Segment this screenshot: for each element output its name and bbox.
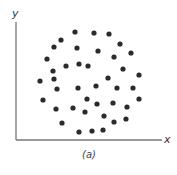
- data-points: [37, 29, 141, 134]
- data-point: [136, 96, 141, 101]
- data-point: [37, 78, 42, 83]
- data-point: [76, 129, 81, 134]
- data-point: [51, 76, 56, 81]
- data-point: [91, 30, 96, 35]
- data-point: [94, 101, 99, 106]
- y-axis: y: [11, 7, 19, 140]
- data-point: [59, 120, 64, 125]
- data-point: [117, 41, 122, 46]
- data-point: [84, 96, 89, 101]
- data-point: [93, 83, 98, 88]
- data-point: [100, 127, 105, 132]
- data-point: [85, 63, 90, 68]
- data-point: [101, 113, 106, 118]
- figure-caption: (a): [82, 149, 96, 160]
- data-point: [111, 119, 116, 124]
- data-point: [105, 75, 110, 80]
- data-point: [76, 61, 81, 66]
- x-axis: x: [16, 133, 171, 146]
- data-point: [72, 29, 77, 34]
- data-point: [136, 72, 141, 77]
- scatter-plot: y x (a): [0, 0, 177, 175]
- data-point: [75, 85, 80, 90]
- data-point: [106, 31, 111, 36]
- data-point: [124, 104, 129, 109]
- data-point: [51, 44, 56, 49]
- data-point: [70, 105, 75, 110]
- data-point: [123, 116, 128, 121]
- data-point: [44, 56, 49, 61]
- data-point: [95, 48, 100, 53]
- data-point: [58, 37, 63, 42]
- data-point: [50, 68, 55, 73]
- y-axis-label: y: [11, 7, 19, 20]
- data-point: [54, 86, 59, 91]
- data-point: [111, 54, 116, 59]
- data-point: [63, 63, 68, 68]
- data-point: [110, 100, 115, 105]
- data-point: [120, 66, 125, 71]
- data-point: [40, 97, 45, 102]
- data-point: [114, 85, 119, 90]
- data-point: [89, 128, 94, 133]
- data-point: [82, 109, 87, 114]
- x-axis-label: x: [163, 133, 171, 146]
- data-point: [53, 106, 58, 111]
- data-point: [128, 50, 133, 55]
- data-point: [74, 45, 79, 50]
- data-point: [130, 85, 135, 90]
